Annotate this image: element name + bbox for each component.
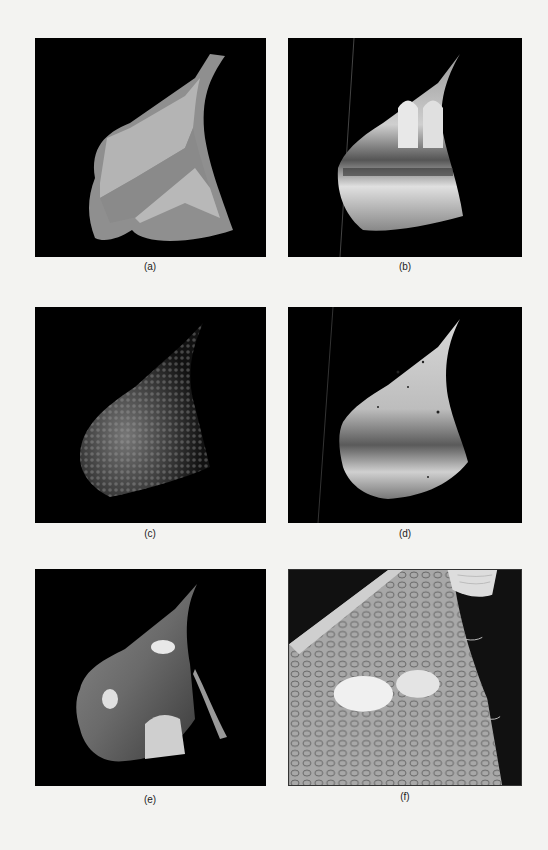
bump-textured-surface-dark [35,307,266,523]
panel-e-image [35,569,266,786]
panel-d-image [288,307,522,523]
panel-a-image [35,38,266,257]
panel-a-label: (a) [120,261,180,272]
bump-textured-surface-lit [288,307,522,523]
panel-c-image [35,307,266,523]
panel-b-label: (b) [375,261,435,272]
panel-b-image [288,38,522,257]
panel-e-label: (e) [120,794,180,805]
panel-c-label: (c) [120,528,180,539]
flat-shaded-surface [35,38,266,257]
panel-d-label: (d) [375,528,435,539]
panel-f-label: (f) [375,791,435,802]
combined-rendering-surface [35,569,266,786]
texture-mapped-surface [288,38,522,257]
panel-f-image [288,569,522,786]
droplet-closeup [289,570,521,785]
